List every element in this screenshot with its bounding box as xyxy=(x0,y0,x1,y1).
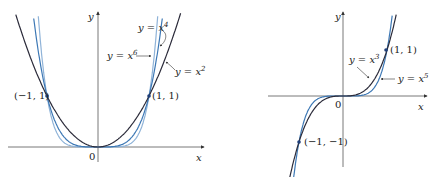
right-chart: (1, 1) (−1, −1) x y 0 y = x3 y = x5 xyxy=(268,11,429,177)
point-label: (1, 1) xyxy=(152,90,179,101)
series-label-x6: y = x6 xyxy=(106,49,138,61)
figure: (−1, 1) (1, 1) x y 0 y = x4 y = x6 y = x… xyxy=(0,0,436,177)
point-label: (−1, −1) xyxy=(304,136,348,147)
point-neg1-neg1 xyxy=(297,140,301,144)
point-1-1 xyxy=(147,94,151,98)
origin-label: 0 xyxy=(89,151,95,162)
series-label-x2: y = x2 xyxy=(174,65,206,77)
y-axis-label: y xyxy=(87,11,94,22)
x-axis-label: x xyxy=(418,101,424,112)
series-label-x3: y = x3 xyxy=(348,53,380,65)
y-axis-label: y xyxy=(334,11,341,22)
left-chart: (−1, 1) (1, 1) x y 0 y = x4 y = x6 y = x… xyxy=(8,11,206,163)
x-axis-label: x xyxy=(196,152,202,163)
point-1-1 xyxy=(384,48,388,52)
series-label-x5: y = x5 xyxy=(397,72,429,84)
origin-label: 0 xyxy=(335,99,341,110)
point-label: (1, 1) xyxy=(390,44,417,55)
point-label: (−1, 1) xyxy=(14,90,49,101)
